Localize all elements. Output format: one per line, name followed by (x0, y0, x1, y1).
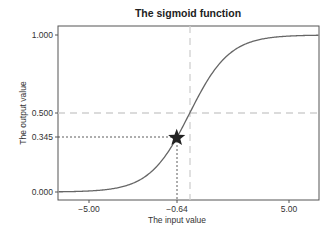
xtick-neg0.64: −0.64 (166, 204, 188, 214)
chart-title: The sigmoid function (135, 7, 241, 19)
y-axis: 1.000 0.500 0.345 0.000 The output value (18, 30, 58, 197)
plot-area (58, 26, 319, 200)
ytick-0.345: 0.345 (32, 132, 54, 142)
x-axis: −5.00 −0.64 5.00 The input value (78, 200, 297, 225)
x-axis-label: The input value (148, 215, 206, 225)
y-axis-label: The output value (18, 81, 28, 145)
ytick-1: 1.000 (32, 30, 54, 40)
xtick-5: 5.00 (281, 204, 298, 214)
ytick-0: 0.000 (32, 187, 54, 197)
xtick-neg5: −5.00 (78, 204, 100, 214)
ytick-0.5: 0.500 (32, 108, 54, 118)
sigmoid-chart: The sigmoid function 1.000 0.500 0.345 0… (0, 0, 334, 235)
